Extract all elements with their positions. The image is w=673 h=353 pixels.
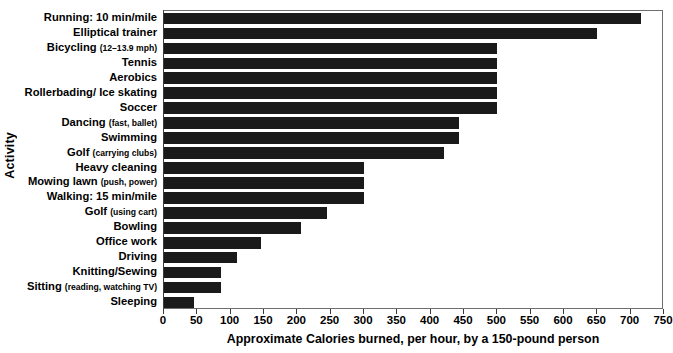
- bar: [164, 43, 497, 55]
- category-label-sub: (fast, ballet): [109, 118, 157, 128]
- category-label: Running: 10 min/mile: [44, 10, 157, 26]
- category-label-main: Soccer: [120, 101, 157, 113]
- category-label: Mowing lawn (push, power): [28, 174, 157, 190]
- x-axis-tick-labels: 0501001502002503003504004505005506006507…: [163, 314, 663, 330]
- bar: [164, 267, 221, 279]
- bar: [164, 177, 364, 189]
- bar: [164, 132, 459, 144]
- category-label: Sleeping: [110, 294, 157, 310]
- x-tick-label: 500: [487, 314, 506, 326]
- category-label: Elliptical trainer: [73, 25, 157, 41]
- category-label-main: Walking: 15 min/mile: [47, 190, 157, 202]
- bar: [164, 117, 459, 129]
- category-label-main: Golf: [67, 146, 92, 158]
- category-label: Golf (carrying clubs): [67, 145, 157, 161]
- bar: [164, 207, 327, 219]
- bar: [164, 252, 237, 264]
- category-label: Heavy cleaning: [76, 160, 157, 176]
- category-label-main: Aerobics: [109, 71, 157, 83]
- category-label-sub: (12–13.9 mph): [100, 43, 157, 53]
- category-label: Driving: [118, 249, 157, 265]
- x-tick-label: 400: [420, 314, 439, 326]
- category-label-main: Knitting/Sewing: [72, 265, 157, 277]
- bar: [164, 222, 301, 234]
- y-axis-title-text: Activity: [3, 132, 17, 179]
- x-tick-label: 300: [353, 314, 372, 326]
- category-label: Sitting (reading, watching TV): [27, 279, 157, 295]
- bar: [164, 162, 364, 174]
- bar: [164, 58, 497, 70]
- category-label: Bicycling (12–13.9 mph): [47, 40, 157, 56]
- category-label-column: Running: 10 min/mileElliptical trainerBi…: [18, 10, 160, 309]
- bar: [164, 147, 444, 159]
- bar: [164, 237, 261, 249]
- category-label-sub: (push, power): [101, 177, 157, 187]
- category-label-sub: (carrying clubs): [93, 148, 157, 158]
- category-label: Bowling: [114, 219, 158, 235]
- category-label-main: Swimming: [101, 131, 157, 143]
- category-label-main: Golf: [85, 205, 110, 217]
- x-tick-label: 550: [520, 314, 539, 326]
- y-axis-title: Activity: [0, 0, 20, 310]
- bar: [164, 13, 641, 25]
- bar: [164, 282, 221, 294]
- category-label-sub: (using cart): [110, 207, 157, 217]
- category-label-main: Sitting: [27, 280, 65, 292]
- category-label: Dancing (fast, ballet): [62, 115, 157, 131]
- category-label-sub: (reading, watching TV): [65, 282, 157, 292]
- category-label-main: Bowling: [114, 220, 158, 232]
- category-label-main: Heavy cleaning: [76, 161, 157, 173]
- bar: [164, 102, 497, 114]
- category-label-main: Dancing: [62, 116, 109, 128]
- x-tick-label: 350: [387, 314, 406, 326]
- plot-area: [163, 10, 663, 309]
- x-tick-label: 700: [620, 314, 639, 326]
- x-tick-label: 0: [160, 314, 166, 326]
- x-tick-label: 450: [453, 314, 472, 326]
- category-label-main: Mowing lawn: [28, 175, 101, 187]
- bar: [164, 87, 497, 99]
- bar: [164, 297, 194, 309]
- category-label-main: Office work: [96, 235, 157, 247]
- x-tick-label: 650: [587, 314, 606, 326]
- category-label: Walking: 15 min/mile: [47, 189, 157, 205]
- bar: [164, 72, 497, 84]
- bar: [164, 28, 597, 40]
- category-label-main: Rollerbading/ Ice skating: [25, 86, 157, 98]
- category-label-main: Running: 10 min/mile: [44, 11, 157, 23]
- category-label-main: Sleeping: [110, 295, 157, 307]
- x-tick-label: 200: [287, 314, 306, 326]
- category-label: Rollerbading/ Ice skating: [25, 85, 157, 101]
- category-label: Swimming: [101, 130, 157, 146]
- category-label-main: Driving: [118, 250, 157, 262]
- x-tick-label: 50: [190, 314, 203, 326]
- x-tick-label: 150: [253, 314, 272, 326]
- x-tick-label: 750: [653, 314, 672, 326]
- x-tick-label: 100: [220, 314, 239, 326]
- x-tick-label: 250: [320, 314, 339, 326]
- category-label: Aerobics: [109, 70, 157, 86]
- category-label: Soccer: [120, 100, 157, 116]
- category-label: Knitting/Sewing: [72, 264, 157, 280]
- category-label-main: Elliptical trainer: [73, 26, 157, 38]
- category-label: Tennis: [122, 55, 157, 71]
- category-label: Office work: [96, 234, 157, 250]
- category-label: Golf (using cart): [85, 204, 157, 220]
- category-label-main: Tennis: [122, 56, 157, 68]
- x-axis-title: Approximate Calories burned, per hour, b…: [163, 332, 663, 346]
- x-tick-label: 600: [553, 314, 572, 326]
- category-label-main: Bicycling: [47, 41, 100, 53]
- bar: [164, 192, 364, 204]
